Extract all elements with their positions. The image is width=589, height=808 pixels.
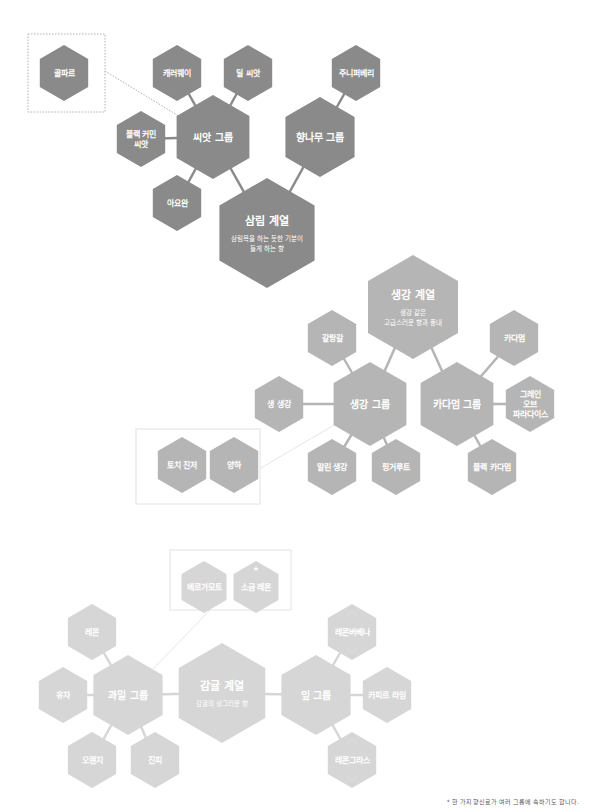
hexagon-nodes: 캐러웨이딜 씨앗블랙 커민씨앗아요완주니퍼베리씨앗 그룹향나무 그룹삼림 계열삼… (39, 45, 554, 788)
item-hex-유자: 유자 (39, 667, 87, 723)
item-label: 씨앗 (134, 139, 149, 149)
aroma-family-diagram: 캐러웨이딜 씨앗블랙 커민씨앗아요완주니퍼베리씨앗 그룹향나무 그룹삼림 계열삼… (0, 0, 589, 808)
group-label: 잎 그룹 (301, 690, 331, 701)
related-boxes (28, 34, 291, 610)
family-label: 생강 계열 (391, 288, 435, 302)
related-label: 베르가모트 (187, 582, 223, 592)
related-label: 양하 (227, 460, 242, 470)
family-description: 고급스러운 향과 풍내 (384, 318, 442, 327)
footnote-caption: * 한 가지 향신료가 여러 그룹에 속하기도 합니다. (447, 797, 579, 806)
family-description: 생강 같은 (400, 308, 426, 317)
item-label: 오브 (523, 400, 538, 409)
family-hex-감귤-계열: 감귤 계열감귤의 상그러운 향 (179, 643, 266, 743)
related-hex-토치-진저: 토치 진저 (158, 437, 206, 493)
group-label: 씨앗 그룹 (193, 131, 232, 143)
item-label: 아요완 (167, 198, 189, 208)
item-label: 블랙 카다멈 (473, 462, 511, 472)
item-hex-아요완: 아요완 (153, 175, 201, 231)
item-label: 레몬그라스 (335, 755, 371, 765)
item-hex-핑거루트: 핑거루트 (372, 439, 420, 495)
related-label: 소금 레몬 (241, 582, 273, 592)
item-label: 카다멈 (504, 333, 525, 343)
item-hex-블랙-커민-씨앗: 블랙 커민씨앗 (117, 111, 165, 167)
item-hex-캐러웨이: 캐러웨이 (153, 45, 201, 101)
item-label: 핑거루트 (382, 462, 411, 472)
group-hex-씨앗-그룹: 씨앗 그룹 (177, 95, 250, 179)
related-label: 토치 진저 (167, 460, 198, 470)
item-hex-그레인-오브-파라다이스: 그레인오브파라다이스 (506, 376, 554, 432)
item-label: 카피르 라임 (368, 690, 406, 700)
group-label: 향나무 그룹 (296, 131, 344, 143)
item-hex-오렌지: 오렌지 (68, 732, 116, 788)
item-hex-말린-생강: 말린 생강 (308, 439, 356, 495)
item-hex-딜-씨앗: 딜 씨앗 (224, 45, 272, 101)
item-label: 주니퍼베리 (339, 68, 374, 78)
star-icon: ★ (253, 565, 259, 573)
family-description: 감귤의 상그러운 향 (196, 699, 248, 708)
family-description: 들게 하는 향 (250, 244, 284, 253)
family-hex-생강-계열: 생강 계열생강 같은고급스러운 향과 풍내 (368, 255, 458, 359)
related-hex-베르가모트: 베르가모트 (182, 561, 227, 613)
group-label: 과일 그룹 (108, 689, 147, 701)
item-label: 진피 (148, 755, 162, 765)
item-hex-카피르-라임: 카피르 라임 (363, 667, 411, 723)
item-hex-블랙-카다멈: 블랙 카다멈 (468, 439, 516, 495)
related-label: 골파르 (54, 68, 76, 78)
group-hex-생강-그룹: 생강 그룹 (334, 362, 407, 446)
item-label: 캐러웨이 (163, 68, 191, 78)
group-hex-향나무-그룹: 향나무 그룹 (285, 97, 354, 177)
item-hex-진피: 진피 (131, 732, 179, 788)
item-label: 말린 생강 (317, 462, 349, 472)
group-label: 생강 그룹 (350, 398, 389, 410)
related-hex-소금-레몬: 소금 레몬★ (234, 561, 279, 613)
related-hex-골파르: 골파르 (40, 45, 88, 101)
group-hex-잎-그룹: 잎 그룹 (281, 655, 350, 735)
item-label: 오렌지 (82, 755, 103, 765)
related-hex-양하: 양하 (210, 437, 258, 493)
item-label: 블랙 커민 (126, 129, 157, 139)
hexagon-shape (179, 643, 266, 743)
item-hex-레몬: 레몬 (68, 604, 116, 660)
item-hex-갈랑갈: 갈랑갈 (308, 310, 356, 366)
item-label: 레몬 (85, 627, 100, 637)
family-hex-삼림-계열: 삼림 계열삼림욕을 하는 듯한 기분이들게 하는 향 (219, 178, 314, 288)
item-label: 딜 씨앗 (236, 68, 261, 78)
hexagon-shape (368, 255, 458, 359)
item-hex-주니퍼베리: 주니퍼베리 (332, 45, 380, 101)
family-label: 감귤 계열 (200, 679, 244, 693)
item-label: 갈랑갈 (322, 333, 344, 343)
item-label: 생 생강 (267, 399, 292, 409)
family-description: 삼림욕을 하는 듯한 기분이 (231, 234, 303, 243)
item-label: 파라다이스 (513, 409, 549, 419)
item-hex-생-생강: 생 생강 (255, 376, 303, 432)
item-label: 레몬버베나 (335, 627, 371, 637)
item-hex-레몬버베나: 레몬버베나 (328, 604, 376, 660)
group-hex-과일-그룹: 과일 그룹 (93, 655, 162, 735)
item-hex-레몬그라스: 레몬그라스 (328, 732, 376, 788)
family-label: 삼림 계열 (245, 214, 289, 228)
group-label: 카다멈 그룹 (433, 398, 481, 410)
hexagon-shape (219, 178, 314, 288)
item-label: 그레인 (520, 389, 541, 399)
item-label: 유자 (56, 690, 71, 700)
